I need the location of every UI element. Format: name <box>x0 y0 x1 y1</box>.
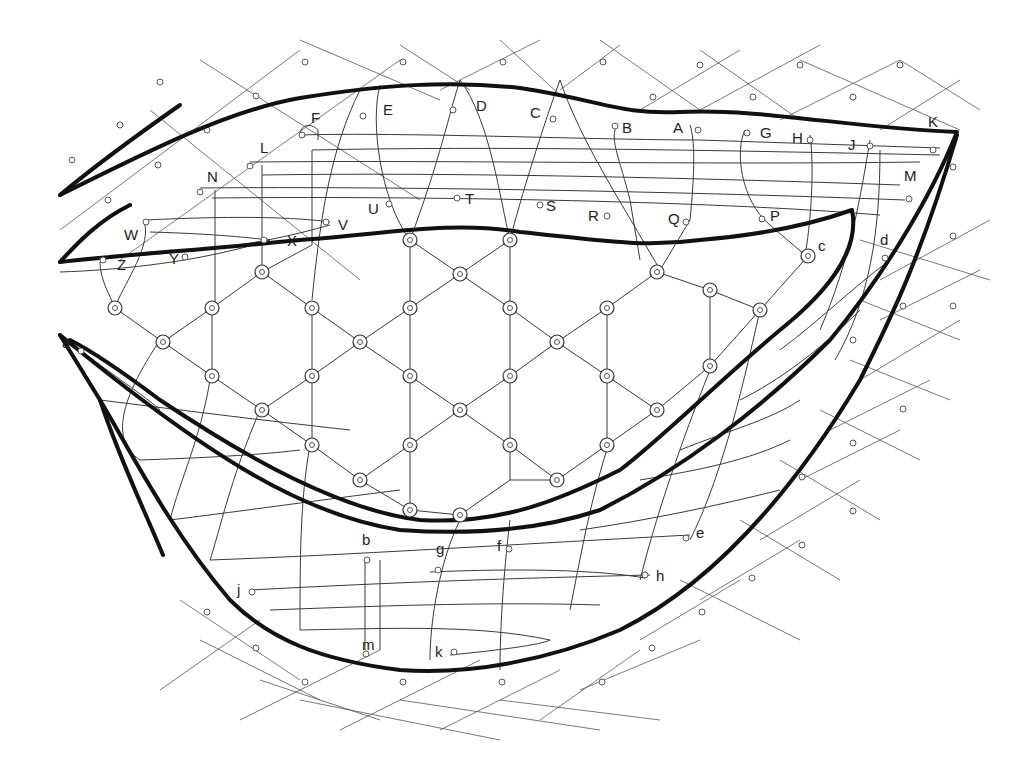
honeycomb-pins <box>108 233 815 522</box>
pin-label-m: m <box>362 636 375 653</box>
pin-label-C: C <box>530 104 541 121</box>
pin-label-X: X <box>287 232 297 249</box>
pin-label-R: R <box>588 207 599 224</box>
pin-label-W: W <box>124 226 139 243</box>
upper-lip-threads <box>60 80 940 360</box>
pin-label-j: j <box>236 581 240 598</box>
pin-label-a: a <box>62 334 71 351</box>
pin-label-Z: Z <box>117 256 126 273</box>
lower-lip-threads <box>80 260 890 670</box>
pin-label-S: S <box>546 197 556 214</box>
pin-label-F: F <box>311 109 320 126</box>
pin-label-V: V <box>338 216 348 233</box>
pin-label-J: J <box>848 136 856 153</box>
pin-label-H: H <box>792 129 803 146</box>
pin-label-E: E <box>383 101 393 118</box>
left-chin-stroke <box>100 400 163 555</box>
pin-label-b: b <box>362 531 370 548</box>
pin-label-g: g <box>436 540 444 557</box>
pin-label-G: G <box>760 124 772 141</box>
pin-label-c: c <box>818 237 826 254</box>
pin-label-Y: Y <box>169 250 179 267</box>
pin-label-B: B <box>622 119 632 136</box>
lip-lace-diagram: ABCDEFGHJKLMNPQRSTUVWXYZabcdefghjkm <box>0 0 1024 761</box>
pin-label-T: T <box>465 190 474 207</box>
pin-label-A: A <box>673 119 683 136</box>
pin-label-N: N <box>207 168 218 185</box>
pin-label-Q: Q <box>668 210 680 227</box>
pin-label-D: D <box>476 97 487 114</box>
pin-label-h: h <box>656 567 664 584</box>
pin-label-U: U <box>368 200 379 217</box>
pin-label-P: P <box>770 207 780 224</box>
left-stroke-1 <box>60 105 180 195</box>
lower-lip-outline <box>100 135 957 671</box>
pin-label-M: M <box>904 167 917 184</box>
pin-label-d: d <box>880 231 888 248</box>
left-stroke-2 <box>60 205 130 262</box>
pin-label-k: k <box>435 643 443 660</box>
pin-label-e: e <box>696 524 704 541</box>
pin-label-K: K <box>928 113 938 130</box>
pin-label-L: L <box>260 139 268 156</box>
